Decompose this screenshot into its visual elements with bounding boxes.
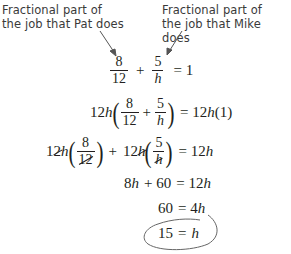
right-paren: ) — [166, 137, 173, 167]
equation-2: 12h ( 8 12 + 5 h ) = 12h(1) — [90, 97, 232, 128]
left-paren: ( — [112, 98, 119, 128]
equation-rhs: = 1 — [173, 62, 193, 79]
plus-sign: + — [143, 104, 151, 121]
equation-6-solution: 15 =h — [158, 225, 199, 242]
fraction-8-12: 8 12 — [110, 55, 128, 86]
denominator: 12 — [110, 70, 128, 86]
numerator: 8 — [114, 55, 125, 70]
equation-rhs: = 12 — [176, 175, 203, 192]
solution-value: 15 — [158, 225, 173, 242]
right-paren: ) — [96, 137, 103, 167]
equation-rhs: = 12 — [180, 104, 207, 121]
cancelled-denominator: 12 — [79, 153, 93, 167]
numerator: 8 — [80, 136, 91, 151]
fraction-5-h: 5 h — [152, 55, 163, 86]
fraction-8-12: 8 12 — [121, 97, 139, 128]
denominator: h — [155, 112, 166, 128]
variable: h — [132, 175, 140, 192]
cancelled-digit: 2 — [54, 143, 62, 160]
variable: h — [61, 143, 69, 160]
numerator: 5 — [153, 136, 164, 151]
equation-rhs: = 4 — [178, 200, 198, 217]
lhs-value: 60 — [158, 200, 173, 217]
equation-5: 60 = 4h — [158, 200, 205, 217]
left-paren: ( — [68, 137, 75, 167]
equation-4: 8h + 60 = 12h — [124, 175, 211, 192]
numerator: 5 — [152, 55, 163, 70]
left-paren: ( — [145, 137, 152, 167]
coefficient: 12 — [90, 104, 105, 121]
numerator: 8 — [124, 97, 135, 112]
variable: h — [198, 200, 206, 217]
plus-sign: + — [136, 62, 144, 79]
arrow-icon-mike — [167, 31, 182, 55]
fraction-8-12-cancelled: 8 12 — [77, 136, 95, 167]
fraction-5-h-cancelled: 5 h — [153, 136, 164, 167]
variable: h — [207, 104, 215, 121]
constant-term: + 60 — [144, 175, 171, 192]
plus-sign: + — [109, 143, 117, 160]
arrow-icon-pat — [100, 31, 116, 56]
equation-rhs: = 12 — [178, 143, 205, 160]
right-paren: ) — [167, 98, 174, 128]
coefficient: 12 — [123, 143, 138, 160]
variable: h — [191, 225, 199, 242]
coefficient-digit-1: 1 — [46, 143, 54, 160]
rhs-tail: (1) — [215, 104, 233, 121]
denominator: h — [152, 70, 163, 86]
coefficient: 8 — [124, 175, 132, 192]
variable: h — [203, 175, 211, 192]
equals-sign: = — [178, 225, 186, 242]
equation-3: 12h ( 8 12 ) + 12h ( 5 h ) = 12h — [46, 136, 213, 167]
fraction-5-h: 5 h — [155, 97, 166, 128]
variable: h — [206, 143, 214, 160]
denominator: 12 — [121, 112, 139, 128]
numerator: 5 — [155, 97, 166, 112]
cancelled-denominator: h — [155, 153, 162, 167]
equation-1: 8 12 + 5 h = 1 — [108, 55, 193, 86]
variable: h — [105, 104, 113, 121]
